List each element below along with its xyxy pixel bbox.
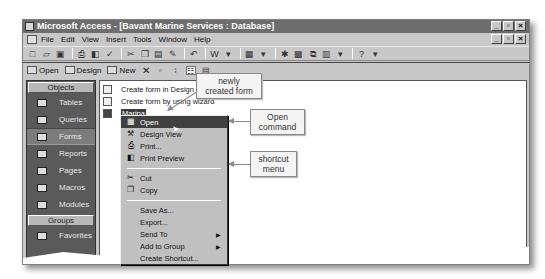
callout-text: menu [254, 164, 293, 174]
menu-item-cut[interactable]: ✂ Cut [121, 172, 227, 184]
submenu-arrow-icon: ▶ [216, 231, 221, 238]
mouse-pointer-icon: ➤ [172, 124, 180, 134]
menu-item-label: Open [140, 118, 158, 127]
menu-separator [127, 200, 221, 201]
print-preview-icon: ◧ [125, 153, 136, 163]
callout-text: Open [254, 112, 301, 122]
copy-icon: ❐ [125, 185, 136, 195]
cut-icon: ✂ [125, 173, 136, 183]
menu-item-label: Cut [140, 174, 152, 183]
menu-item-label: Print... [140, 142, 162, 151]
menu-item-label: Create Shortcut... [140, 254, 199, 263]
callout-text: created form [200, 86, 258, 96]
stage: Microsoft Access - [Bavant Marine Servic… [0, 0, 545, 279]
callout-shortcut-menu: shortcut menu [250, 151, 297, 177]
context-menu: ▦ Open ⚒ Design View ⎙ Print... ◧ Print … [120, 115, 228, 265]
callout-text: shortcut [254, 154, 293, 164]
callout-arrow [229, 121, 250, 122]
print-icon: ⎙ [125, 141, 136, 151]
menu-item-label: Add to Group [140, 242, 185, 251]
callout-arrow [229, 164, 250, 165]
menu-item-send-to[interactable]: Send To ▶ [121, 228, 227, 240]
menu-item-export[interactable]: Export... [121, 216, 227, 228]
menu-item-copy[interactable]: ❐ Copy [121, 184, 227, 196]
menu-item-label: Save As... [140, 206, 174, 215]
design-view-icon: ⚒ [125, 129, 136, 139]
menu-item-label: Export... [140, 218, 168, 227]
menu-item-print-preview[interactable]: ◧ Print Preview [121, 152, 227, 164]
access-window: Microsoft Access - [Bavant Marine Servic… [22, 19, 530, 265]
callout-open-command: Open command [250, 109, 305, 135]
callout-text: command [254, 122, 301, 132]
torn-edge-decoration [23, 20, 530, 265]
menu-item-print[interactable]: ⎙ Print... [121, 140, 227, 152]
submenu-arrow-icon: ▶ [216, 243, 221, 250]
callout-text: newly [200, 76, 258, 86]
menu-item-add-to-group[interactable]: Add to Group ▶ [121, 240, 227, 252]
menu-item-save-as[interactable]: Save As... [121, 204, 227, 216]
callout-newly-created-form: newly created form [196, 73, 262, 99]
menu-item-label: Copy [140, 186, 158, 195]
open-icon: ▦ [125, 117, 136, 127]
menu-separator [127, 168, 221, 169]
menu-item-create-shortcut[interactable]: Create Shortcut... [121, 252, 227, 264]
menu-item-label: Print Preview [140, 154, 184, 163]
menu-item-label: Send To [140, 230, 167, 239]
